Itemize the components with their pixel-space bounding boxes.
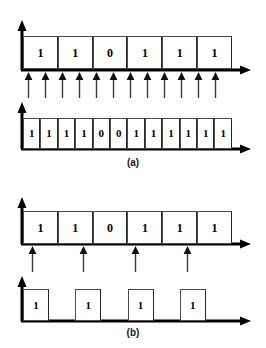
bit-cell: 1: [162, 118, 179, 149]
panel-a-caption: (a): [0, 157, 266, 168]
bit-cell: 1: [197, 211, 232, 244]
panel-b-input-bit-cells: 110111: [23, 211, 232, 244]
bit-cell: 1: [127, 211, 162, 244]
pulse-low: [206, 289, 232, 321]
panel-b-output-pulses: 1111: [23, 289, 232, 321]
bit-cell: 1: [197, 36, 232, 69]
bit-cell: 0: [110, 118, 127, 149]
panel-a-sampling-arrows: [0, 72, 266, 98]
bit-cell: 1: [58, 211, 93, 244]
timing-diagram-figure: 110111 111100111111 (a) 110111: [0, 0, 266, 348]
pulse-high: 1: [75, 289, 101, 321]
panel-a-input-bit-cells: 110111: [23, 36, 232, 69]
bit-cell: 1: [23, 211, 58, 244]
bit-cell: 0: [93, 36, 128, 69]
pulse-high: 1: [128, 289, 154, 321]
sampling-arrow: [75, 72, 84, 98]
pulse-low: [101, 289, 127, 321]
sampling-arrow: [92, 72, 101, 98]
bit-cell: 1: [75, 118, 92, 149]
sampling-arrow: [143, 72, 152, 98]
bit-cell: 1: [197, 118, 214, 149]
bit-cell: 1: [127, 118, 144, 149]
panel-b-sampling-arrows: [0, 246, 266, 272]
bit-cell: 1: [145, 118, 162, 149]
bit-cell: 1: [58, 118, 75, 149]
pulse-low: [154, 289, 180, 321]
bit-cell: 1: [23, 36, 58, 69]
bit-cell: 0: [93, 211, 128, 244]
sampling-arrow: [183, 246, 192, 272]
bit-cell: 1: [214, 118, 231, 149]
pulse-high: 1: [23, 289, 49, 321]
sampling-arrow: [126, 72, 135, 98]
bit-cell: 1: [162, 211, 197, 244]
bit-cell: 1: [23, 118, 40, 149]
sampling-arrow: [28, 246, 37, 272]
sampling-arrow: [211, 72, 220, 98]
panel-a-output-bit-cells: 111100111111: [23, 118, 232, 149]
bit-cell: 1: [58, 36, 93, 69]
sampling-arrow: [109, 72, 118, 98]
pulse-high: 1: [180, 289, 206, 321]
sampling-arrow: [131, 246, 140, 272]
sampling-arrow: [41, 72, 50, 98]
sampling-arrow: [177, 72, 186, 98]
bit-cell: 1: [40, 118, 57, 149]
sampling-arrow: [79, 246, 88, 272]
bit-cell: 1: [127, 36, 162, 69]
sampling-arrow: [24, 72, 33, 98]
bit-cell: 1: [180, 118, 197, 149]
bit-cell: 1: [162, 36, 197, 69]
pulse-low: [49, 289, 75, 321]
bit-cell: 0: [93, 118, 110, 149]
sampling-arrow: [160, 72, 169, 98]
sampling-arrow: [194, 72, 203, 98]
sampling-arrow: [58, 72, 67, 98]
panel-b-caption: (b): [0, 327, 266, 338]
